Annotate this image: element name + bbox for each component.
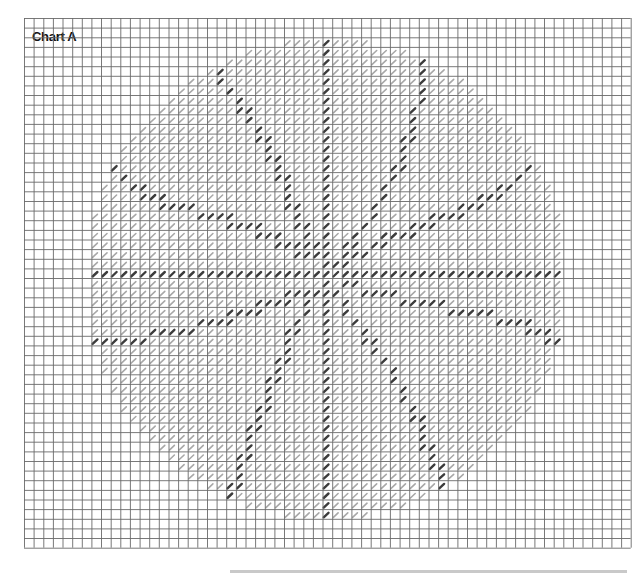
knitting-chart-grid: [24, 18, 632, 549]
